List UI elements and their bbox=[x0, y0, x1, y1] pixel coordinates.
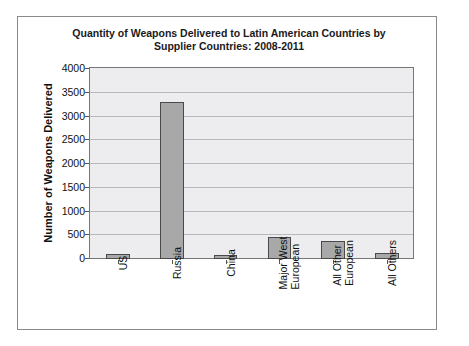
bar-slot bbox=[360, 69, 414, 259]
x-tick-label-major-west-european: Major WestEuropean bbox=[278, 237, 301, 290]
x-tick-label-line: US bbox=[117, 256, 129, 271]
y-tick-label: 2000 bbox=[43, 157, 85, 169]
chart-title-line-1: Quantity of Weapons Delivered to Latin A… bbox=[54, 27, 404, 40]
plot-region: 05001000150020002500300035004000 bbox=[89, 67, 414, 259]
bar-russia[interactable] bbox=[160, 102, 184, 259]
x-label-slot: Russia bbox=[144, 261, 198, 346]
x-tick-label-russia: Russia bbox=[171, 247, 183, 279]
y-tick-mark bbox=[85, 163, 89, 164]
chart-title: Quantity of Weapons Delivered to Latin A… bbox=[54, 27, 404, 53]
y-tick-label: 4000 bbox=[43, 62, 85, 74]
x-tick-label-line: All Other bbox=[332, 240, 344, 286]
bar-slot bbox=[91, 69, 145, 259]
x-tick-label-all-others: All Others bbox=[386, 240, 398, 286]
y-tick-mark bbox=[85, 68, 89, 69]
x-tick-label-line: European bbox=[290, 237, 302, 290]
y-tick-label: 3500 bbox=[43, 86, 85, 98]
x-tick-label-line: All Others bbox=[386, 240, 398, 286]
y-tick-mark bbox=[85, 92, 89, 93]
plot-area bbox=[89, 67, 414, 259]
y-tick-mark bbox=[85, 211, 89, 212]
y-tick-mark bbox=[85, 116, 89, 117]
bar-slot bbox=[306, 69, 360, 259]
x-tick-label-us: US bbox=[117, 256, 129, 271]
x-tick-label-all-other-european: All OtherEuropean bbox=[332, 240, 355, 286]
x-label-slot: All Others bbox=[359, 261, 413, 346]
y-tick-mark bbox=[85, 258, 89, 259]
x-label-slot: Major WestEuropean bbox=[251, 261, 305, 346]
chart-title-line-2: Supplier Countries: 2008-2011 bbox=[54, 40, 404, 53]
y-tick-label: 0 bbox=[43, 252, 85, 264]
x-tick-label-china: China bbox=[225, 249, 237, 276]
y-tick-label: 1000 bbox=[43, 205, 85, 217]
y-tick-mark bbox=[85, 139, 89, 140]
y-tick-label: 500 bbox=[43, 228, 85, 240]
y-tick-mark bbox=[85, 234, 89, 235]
bar-slot bbox=[252, 69, 306, 259]
y-tick-label: 2500 bbox=[43, 133, 85, 145]
bar-series bbox=[91, 69, 414, 259]
y-tick-label: 3000 bbox=[43, 110, 85, 122]
x-tick-label-line: China bbox=[225, 249, 237, 276]
x-axis-labels: USRussiaChinaMajor WestEuropeanAll Other… bbox=[90, 261, 413, 346]
chart-frame: Quantity of Weapons Delivered to Latin A… bbox=[17, 16, 437, 330]
y-tick-label: 1500 bbox=[43, 181, 85, 193]
x-tick-label-line: European bbox=[344, 240, 356, 286]
x-label-slot: China bbox=[198, 261, 252, 346]
x-label-slot: All OtherEuropean bbox=[305, 261, 359, 346]
bar-slot bbox=[145, 69, 199, 259]
bar-slot bbox=[199, 69, 253, 259]
x-tick-label-line: Russia bbox=[171, 247, 183, 279]
y-tick-mark bbox=[85, 187, 89, 188]
x-label-slot: US bbox=[90, 261, 144, 346]
